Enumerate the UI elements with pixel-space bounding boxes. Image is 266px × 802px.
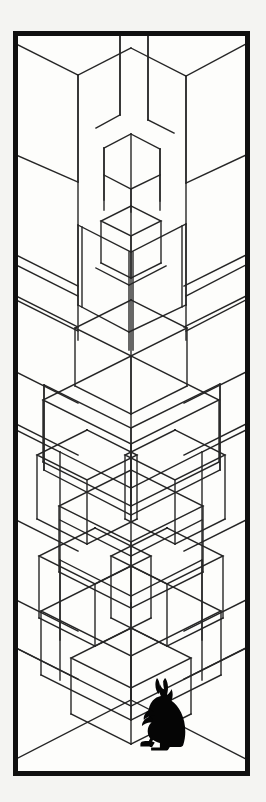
artboard (0, 0, 266, 802)
isometric-illustration (0, 0, 266, 802)
